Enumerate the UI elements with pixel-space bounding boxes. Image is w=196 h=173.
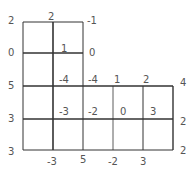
vertex-value-label: 3 [8, 147, 14, 157]
vertex-value-label: -2 [108, 157, 118, 167]
vertex-value-label: 3 [140, 157, 146, 167]
vertex-value-label: 1 [114, 75, 120, 85]
vertex-value-label: 5 [8, 81, 14, 91]
vertex-value-label: -3 [47, 157, 57, 167]
vertex-value-label: -2 [88, 107, 98, 117]
vertex-value-label: 2 [180, 146, 186, 156]
vertex-value-label: -4 [59, 75, 69, 85]
vertex-value-label: -3 [59, 107, 69, 117]
vertex-value-label: 2 [48, 12, 54, 22]
grid-lines [0, 0, 196, 173]
vertex-value-label: 3 [150, 107, 156, 117]
vertex-value-label: 2 [8, 16, 14, 26]
vertex-value-label: 0 [8, 48, 14, 58]
vertex-value-label: -4 [88, 75, 98, 85]
vertex-value-label: 2 [143, 75, 149, 85]
vertex-value-label: -1 [87, 16, 97, 26]
vertex-value-label: 3 [8, 114, 14, 124]
vertex-value-label: 2 [180, 117, 186, 127]
vertex-value-label: 5 [80, 155, 86, 165]
vertex-value-label: 4 [180, 78, 186, 88]
vertex-value-label: 1 [61, 44, 67, 54]
vertex-value-label: 0 [89, 48, 95, 58]
vertex-value-label: 0 [120, 107, 126, 117]
grid-diagram: 205332-110-4-4124-3-20322-35-23 [0, 0, 196, 173]
